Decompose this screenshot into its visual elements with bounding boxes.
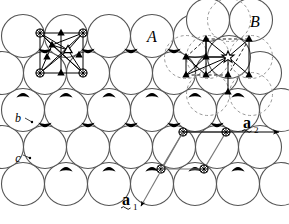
label-vector-a1-base: a — [122, 191, 130, 208]
lattice-point-marker — [200, 165, 209, 174]
label-vector-a1-sub: 1 — [133, 202, 138, 212]
label-sphere-B: B — [250, 13, 260, 30]
atom-center-marker — [79, 69, 88, 78]
crystal-structure-svg: A B b c a 1 a 2 — [0, 0, 289, 224]
label-vector-a2-base: a — [243, 114, 251, 131]
sphere-row-top — [2, 15, 217, 58]
label-layer-c: c — [15, 151, 21, 165]
atom-center-marker — [36, 29, 45, 38]
label-layer-b: b — [15, 111, 21, 125]
atom-center-marker — [79, 29, 88, 38]
label-sphere-A: A — [146, 28, 157, 45]
label-vector-a2-sub: 2 — [254, 125, 259, 135]
atom-center-marker — [36, 69, 45, 78]
figure-canvas: A B b c a 1 a 2 — [0, 0, 289, 224]
